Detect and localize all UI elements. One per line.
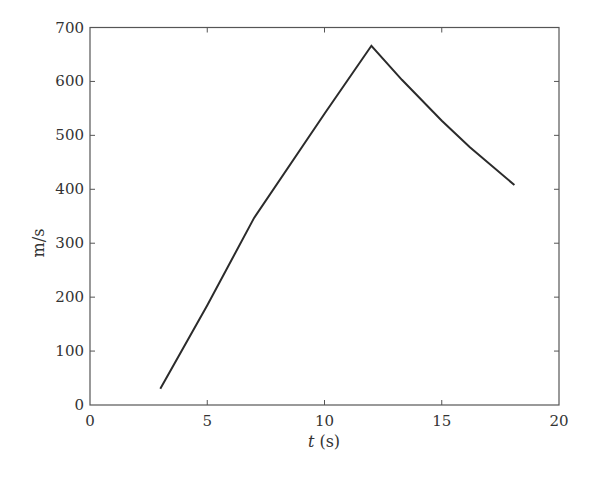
y-tick-label: 600 xyxy=(55,72,84,90)
y-tick-label: 400 xyxy=(55,180,84,198)
x-tick-label: 10 xyxy=(315,412,334,430)
x-axis-ticks: 05101520 xyxy=(85,28,568,431)
y-axis-label: m/s xyxy=(29,229,48,258)
x-tick-label: 5 xyxy=(202,412,212,430)
y-tick-label: 200 xyxy=(55,288,84,306)
plot-frame xyxy=(90,28,559,406)
x-tick-label: 0 xyxy=(85,412,95,430)
line-chart: 05101520 0100200300400500600700 t (s) m/… xyxy=(0,0,599,478)
x-tick-label: 20 xyxy=(549,412,568,430)
y-tick-label: 100 xyxy=(55,342,84,360)
y-tick-label: 300 xyxy=(55,234,84,252)
y-axis-ticks: 0100200300400500600700 xyxy=(55,19,559,415)
x-tick-label: 15 xyxy=(432,412,451,430)
data-line xyxy=(160,46,514,389)
y-tick-label: 700 xyxy=(55,19,84,37)
x-axis-label: t (s) xyxy=(308,432,340,451)
y-tick-label: 500 xyxy=(55,126,84,144)
x-axis-unit: (s) xyxy=(314,432,340,451)
y-tick-label: 0 xyxy=(74,396,84,414)
